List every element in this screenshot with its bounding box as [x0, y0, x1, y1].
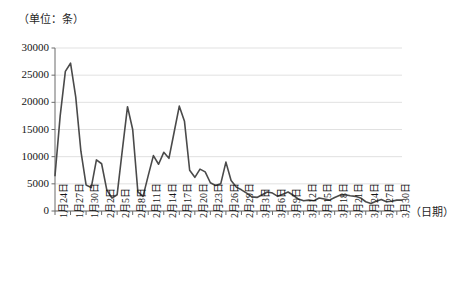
x-tick-label: 2月5日 [121, 188, 131, 218]
x-tick-label: 2月11日 [152, 183, 162, 218]
x-tick-label: 3月27日 [385, 183, 395, 218]
x-tick-label: 2月26日 [230, 183, 240, 218]
x-tick-label: 2月8日 [137, 188, 147, 218]
y-tick-label: 15000 [22, 124, 50, 135]
plot-area [0, 0, 462, 283]
x-tick-label: 2月23日 [214, 183, 224, 218]
x-tick-label: 1月24日 [59, 183, 69, 218]
x-tick-label: 2月20日 [199, 183, 209, 218]
x-tick-label: 3月9日 [292, 188, 302, 218]
x-tick-label: 3月21日 [354, 183, 364, 218]
x-tick-label: 2月29日 [245, 183, 255, 218]
x-tick-label: 3月18日 [339, 183, 349, 218]
y-axis-ticks [52, 48, 56, 211]
x-tick-label: 1月27日 [75, 183, 85, 218]
y-tick-label: 5000 [27, 178, 49, 189]
x-tick-label: 3月30日 [401, 183, 411, 218]
y-tick-label: 20000 [22, 96, 50, 107]
y-tick-label: 30000 [22, 42, 50, 53]
x-tick-label: 2月2日 [106, 188, 116, 218]
y-tick-label: 25000 [22, 69, 50, 80]
x-tick-label: 3月6日 [277, 188, 287, 218]
x-tick-label: 2月14日 [168, 183, 178, 218]
x-tick-label: 1月30日 [90, 183, 100, 218]
x-tick-label: 3月3日 [261, 188, 271, 218]
x-tick-label: 3月12日 [308, 183, 318, 218]
x-tick-label: 3月15日 [323, 183, 333, 218]
line-chart: （单位：条） （日期） 0500010000150002000025000300… [0, 0, 462, 283]
y-tick-label: 10000 [22, 151, 50, 162]
x-tick-label: 2月17日 [183, 183, 193, 218]
y-tick-label: 0 [44, 205, 50, 216]
x-tick-label: 3月24日 [370, 183, 380, 218]
